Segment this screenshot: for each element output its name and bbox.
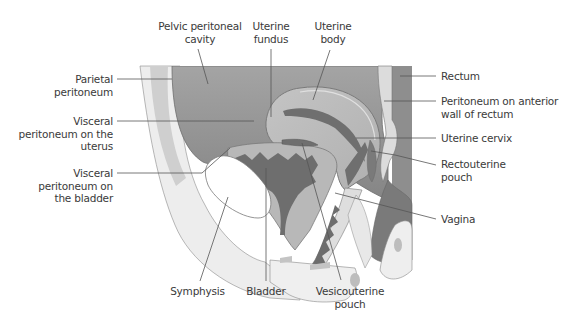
label-uterine-body: Uterine body [308,20,358,45]
label-uterine-cervix: Uterine cervix [441,132,571,145]
label-vesicouterine-pouch: Vesicouterine pouch [310,285,390,310]
anatomy-figure: Parietal peritoneum Visceral peritoneum … [0,0,573,319]
label-peritoneum-anterior-wall-rectum: Peritoneum on anterior wall of rectum [441,95,571,120]
label-uterine-fundus: Uterine fundus [246,20,296,45]
label-vagina: Vagina [441,213,571,226]
label-rectouterine-pouch: Rectouterine pouch [441,158,571,183]
label-visceral-peritoneum-bladder: Visceral peritoneum on the bladder [10,167,113,205]
label-parietal-peritoneum: Parietal peritoneum [20,73,113,98]
label-pelvic-peritoneal-cavity: Pelvic peritoneal cavity [150,20,250,45]
label-rectum: Rectum [441,70,571,83]
label-visceral-peritoneum-uterus: Visceral peritoneum on the uterus [10,115,113,153]
label-symphysis: Symphysis [165,285,230,298]
label-bladder: Bladder [241,285,291,298]
